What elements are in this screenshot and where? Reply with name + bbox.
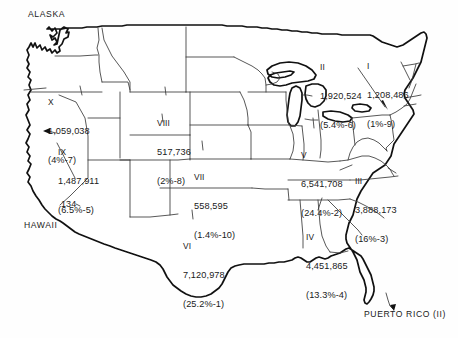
region-pct-rank-ii: (5.4%-6) [320,121,362,131]
region-count-iv: 4,451,865 [306,262,348,272]
region-roman-ii: II [320,63,362,73]
region-roman-ix: IX [58,148,99,158]
us-regions-map: X 1,059,038 (4%-7) IX 1,487,911 (6.5%-5)… [0,0,458,338]
region-roman-i: I [367,62,409,72]
region-roman-iii: III [355,177,397,187]
region-roman-viii: VIII [157,119,191,129]
region-label-iii: III 3,888,173 (16%-3) [355,157,397,265]
region-label-ii: II 1,920,524 (5.4%-6) [320,43,362,151]
region-label-vi: VI 7,120,978 (25.2%-1) [183,222,225,330]
region-label-viii: VIII 517,736 (2%-8) [157,99,191,207]
region-pct-rank-iii: (16%-3) [355,235,397,245]
region-count-iii: 3,888,173 [355,206,397,216]
region-label-iv: IV 4,451,865 (13.3%-4) [306,213,348,321]
region-count-vii: 558,595 [194,202,235,212]
region-count-i: 1,208,486 [367,91,409,101]
region-roman-vi: VI [183,242,225,252]
hawaii-label: HAWAII [24,221,58,231]
hawaii-value-label: 134 [61,200,76,210]
puerto-rico-label: PUERTO RICO (II) [364,310,446,320]
region-roman-x: X [48,98,90,108]
region-count-ix: 1,487,911 [58,177,99,187]
region-label-i: I 1,208,486 (1%-9) [367,42,409,150]
region-label-ix: IX 1,487,911 (6.5%-5) [58,128,99,236]
region-roman-iv: IV [306,233,348,243]
region-pct-rank-iv: (13.3%-4) [306,291,348,301]
region-count-v: 6,541,708 [301,180,343,190]
region-count-ii: 1,920,524 [320,92,362,102]
region-count-viii: 517,736 [157,148,191,158]
alaska-label: ALASKA [28,10,65,20]
region-roman-v: V [301,151,343,161]
region-roman-vii: VII [194,173,235,183]
region-pct-rank-i: (1%-9) [367,120,409,130]
region-pct-rank-viii: (2%-8) [157,177,191,187]
region-count-vi: 7,120,978 [183,271,225,281]
region-pct-rank-vi: (25.2%-1) [183,300,225,310]
